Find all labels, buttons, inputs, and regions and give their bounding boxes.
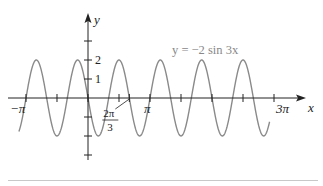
axis-labels: 21−π2π3π3πxyy = −2 sin 3x: [10, 12, 314, 133]
axes: [8, 13, 306, 160]
y-tick-label: 2: [95, 53, 101, 67]
y-axis-label: y: [92, 12, 100, 27]
sine-graph: 21−π2π3π3πxyy = −2 sin 3x: [0, 0, 323, 186]
x-axis-label: x: [307, 100, 314, 115]
figure: 21−π2π3π3πxyy = −2 sin 3x: [0, 0, 323, 186]
y-tick-label: 1: [95, 72, 101, 86]
bottom-divider: [8, 180, 318, 181]
x-tick-label-numerator: 2π: [103, 107, 115, 119]
x-tick-label: 3π: [275, 101, 290, 116]
x-tick-label: −π: [10, 101, 26, 116]
x-tick-label: π: [144, 101, 151, 116]
x-tick-label-denominator: 3: [107, 121, 113, 133]
equation-label: y = −2 sin 3x: [172, 43, 239, 57]
leader-line: [115, 99, 129, 109]
